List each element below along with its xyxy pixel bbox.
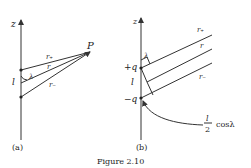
upper-charge-dot-a — [19, 68, 22, 71]
r-plus-label-a: r₊ — [46, 53, 53, 61]
panel-a: z P l λ r₊ r r₋ (a) — [10, 19, 94, 152]
figure-caption: Figure 2.10 — [97, 157, 144, 166]
panel-a-tag: (a) — [12, 143, 23, 152]
annotation-numerator: l — [206, 114, 209, 123]
panel-b-tag: (b) — [136, 143, 147, 152]
panel-b: z λ +q l −q r₊ r r₋ l 2 cosλ (b) — [124, 17, 234, 152]
r-minus-label-a: r₋ — [49, 81, 56, 89]
lower-charge-dot-a — [19, 95, 22, 98]
angle-label-b: λ — [143, 52, 148, 60]
separation-label-b: l — [131, 77, 134, 87]
plus-charge-dot — [139, 66, 142, 69]
z-axis-label-a: z — [10, 19, 16, 29]
angle-arc-a — [21, 76, 27, 80]
r-label-b: r — [200, 42, 204, 50]
angle-label-a: λ — [28, 73, 33, 81]
point-p-label: P — [86, 40, 94, 51]
plus-charge-label: +q — [124, 62, 138, 72]
annotation-denominator: 2 — [205, 125, 210, 134]
figure-canvas: z P l λ r₊ r r₋ (a) z λ +q l −q r₊ r — [0, 0, 251, 168]
r-minus-label-b: r₋ — [199, 73, 206, 81]
minus-charge-label: −q — [124, 94, 138, 104]
annotation-arrow — [143, 101, 203, 125]
z-axis-label-b: z — [132, 17, 138, 26]
separation-label-a: l — [12, 77, 15, 87]
r-plus-label-b: r₊ — [197, 26, 204, 34]
r-plus-line-b — [141, 35, 212, 68]
annotation-cos-lambda: cosλ — [216, 120, 234, 129]
minus-charge-dot — [139, 96, 142, 99]
projection-segment-upper — [141, 68, 147, 82]
